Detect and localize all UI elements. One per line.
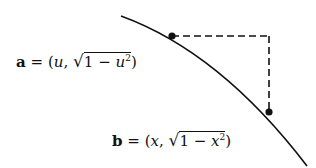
radical-icon: √ — [169, 130, 180, 150]
comma: , — [63, 53, 68, 71]
label-point-a: a = (u, √1 − u2) — [16, 52, 137, 70]
diagram-canvas: a = (u, √1 − u2) b = (x, √1 − x2) — [0, 0, 316, 168]
comma: , — [159, 132, 164, 150]
sqrt-expression: √1 − x2 — [169, 131, 226, 149]
equals-sign: = — [31, 53, 44, 71]
coord-u: u — [54, 53, 64, 71]
var-b: b — [112, 132, 123, 150]
close-paren: ) — [131, 53, 137, 71]
coord-u-squared: u — [116, 53, 126, 71]
point-a — [168, 32, 175, 39]
minus-sign: − — [194, 132, 207, 150]
close-paren: ) — [225, 132, 231, 150]
coord-x: x — [151, 132, 159, 150]
radical-icon: √ — [73, 51, 84, 71]
sqrt-expression: √1 − u2 — [73, 52, 131, 70]
exponent: 2 — [220, 132, 226, 142]
equals-sign: = — [127, 132, 140, 150]
var-a: a — [16, 53, 26, 71]
point-b — [265, 108, 272, 115]
one: 1 — [179, 132, 189, 150]
label-point-b: b = (x, √1 − x2) — [112, 131, 231, 149]
minus-sign: − — [98, 53, 111, 71]
exponent: 2 — [125, 53, 131, 63]
one: 1 — [84, 53, 94, 71]
coord-x-squared: x — [211, 132, 219, 150]
